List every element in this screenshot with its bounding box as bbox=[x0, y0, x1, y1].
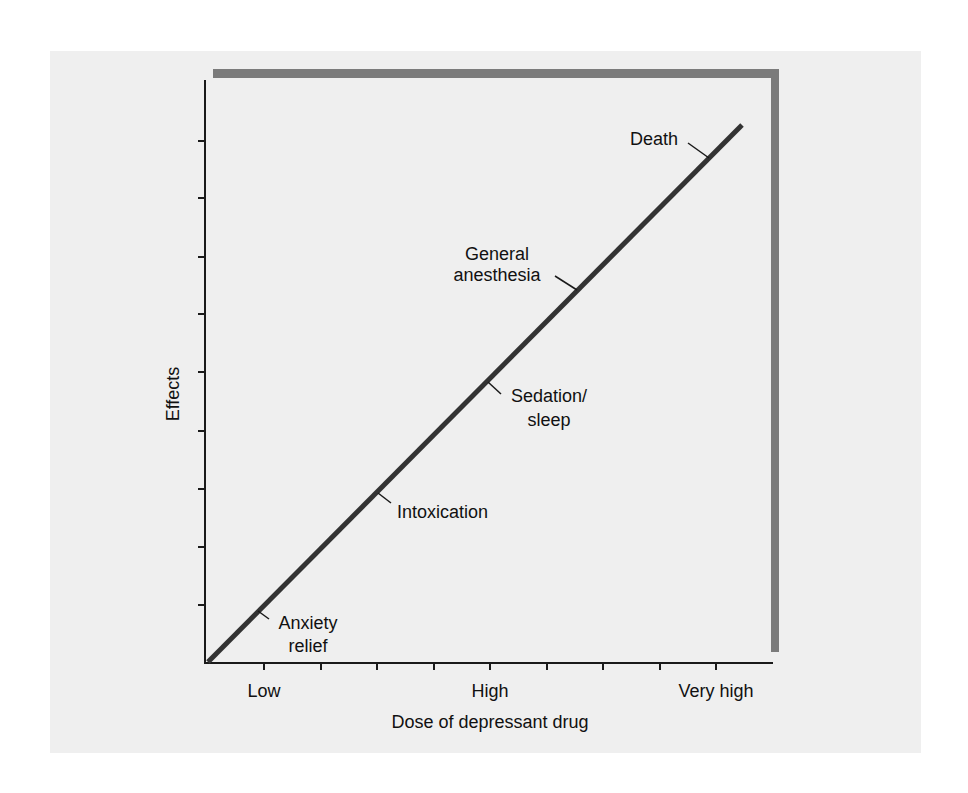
annotation-sedation-line1: Sedation/ bbox=[511, 386, 587, 406]
x-tick-label-very-high: Very high bbox=[678, 681, 753, 701]
dose-effect-chart: Anxiety relief Intoxication Sedation/ sl… bbox=[0, 0, 968, 793]
annotation-general-line2: anesthesia bbox=[453, 265, 541, 285]
x-axis-title: Dose of depressant drug bbox=[391, 712, 588, 732]
frame-top-bar bbox=[213, 69, 779, 78]
x-tick-label-high: High bbox=[471, 681, 508, 701]
y-ticks bbox=[198, 141, 205, 605]
leader-intoxication bbox=[378, 493, 391, 503]
frame-right-bar bbox=[771, 69, 779, 652]
y-axis-title: Effects bbox=[163, 367, 183, 422]
axes bbox=[204, 80, 773, 664]
x-tick-label-low: Low bbox=[247, 681, 281, 701]
leader-anxiety bbox=[258, 611, 269, 619]
annotation-general-line1: General bbox=[465, 244, 529, 264]
leader-general-anesthesia bbox=[555, 276, 577, 290]
annotation-anxiety-line2: relief bbox=[288, 636, 328, 656]
annotation-leaders bbox=[258, 143, 709, 619]
annotation-anxiety-line1: Anxiety bbox=[278, 613, 337, 633]
annotation-intoxication: Intoxication bbox=[397, 502, 488, 522]
dose-effect-line bbox=[208, 125, 742, 662]
leader-sedation bbox=[488, 382, 501, 394]
annotation-death: Death bbox=[630, 129, 678, 149]
leader-death bbox=[688, 143, 709, 158]
x-ticks bbox=[264, 663, 716, 670]
annotation-sedation-line2: sleep bbox=[527, 410, 570, 430]
